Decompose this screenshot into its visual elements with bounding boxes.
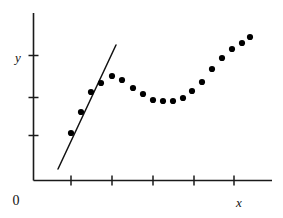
data-point [209,66,215,72]
data-point [140,91,146,97]
data-point [78,109,84,115]
data-point [130,85,136,91]
fitted-trend-line [58,45,116,169]
data-point [239,40,245,46]
data-point [180,95,186,101]
data-point [219,55,225,61]
scatter-plot: y x 0 [0,0,283,218]
origin-label: 0 [13,193,20,208]
data-point [247,34,253,40]
data-point [119,77,125,83]
data-point-group [68,34,253,136]
y-axis-label: y [13,50,21,65]
data-point [160,98,166,104]
data-point [199,79,205,85]
data-point [150,97,156,103]
data-point [170,98,176,104]
data-point [88,89,94,95]
data-point [229,46,235,52]
data-point [189,88,195,94]
data-point [68,130,74,136]
data-point [109,73,115,79]
x-axis-label: x [235,195,242,210]
figure-container: y x 0 [0,0,283,218]
data-point [98,80,104,86]
